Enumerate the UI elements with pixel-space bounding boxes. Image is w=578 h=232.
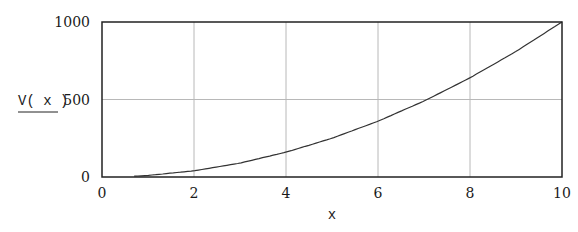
y-tick-label: 1000 — [54, 14, 90, 30]
y-tick-label: 0 — [81, 169, 90, 185]
x-tick-label: 4 — [282, 185, 291, 201]
line-chart: 0246810 05001000 V( x ) x — [0, 0, 578, 232]
gridlines — [102, 22, 562, 177]
x-axis-ticks: 0246810 — [98, 185, 571, 201]
x-tick-label: 10 — [553, 185, 571, 201]
y-axis-label: V( x ) — [18, 93, 68, 109]
x-tick-label: 8 — [466, 185, 475, 201]
x-axis-label: x — [328, 207, 336, 223]
x-tick-label: 2 — [190, 185, 199, 201]
x-tick-label: 0 — [98, 185, 107, 201]
x-tick-label: 6 — [374, 185, 383, 201]
